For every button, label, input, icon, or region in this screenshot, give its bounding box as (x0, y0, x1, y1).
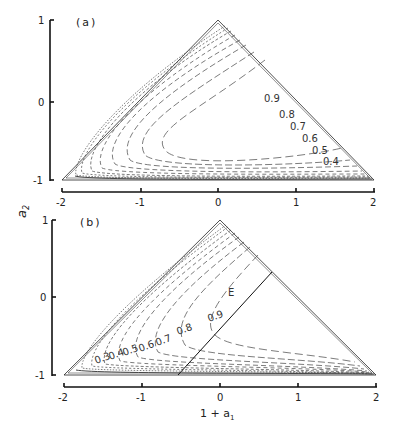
line-e (178, 272, 272, 375)
ylabel: a2 (14, 205, 31, 218)
xtick-b: -2 (58, 392, 68, 403)
contour-labels-a: 0.9 0.8 0.7 0.6 0.5 0.4 (264, 93, 339, 167)
xtick-b: 2 (373, 392, 379, 403)
ytick-b: -1 (35, 370, 45, 381)
svg-text:0.6: 0.6 (302, 133, 318, 144)
svg-text:0.5: 0.5 (312, 145, 328, 156)
svg-text:0.9: 0.9 (206, 308, 225, 324)
ytick-a-0: 0 (38, 97, 44, 108)
svg-text:0.9: 0.9 (264, 93, 280, 104)
panel-label-b: (b) (80, 216, 102, 229)
panel-label-a: (a) (76, 16, 97, 29)
xtick-b: -1 (136, 392, 146, 403)
svg-text:0.7: 0.7 (154, 332, 173, 348)
svg-text:0.6: 0.6 (137, 338, 156, 354)
panel-a: 1 0 -1 -2 -1 0 1 2 (a) 0.9 (14, 15, 376, 218)
panel-b: 1 0 -1 -2 -1 0 1 2 (b) E (35, 215, 379, 422)
svg-text:0.4: 0.4 (323, 156, 339, 167)
xtick-a: -2 (56, 197, 66, 208)
xtick-b: 1 (295, 392, 301, 403)
xtick-a: 2 (370, 197, 376, 208)
xtick-a: -1 (135, 197, 145, 208)
ytick-a-1: 1 (38, 15, 44, 26)
ytick-a-m1: -1 (33, 175, 43, 186)
xlabel: 1 + a1 (200, 407, 234, 422)
ytick-b: 1 (42, 215, 48, 226)
xtick-a: 0 (215, 197, 221, 208)
xtick-a: 1 (293, 197, 299, 208)
svg-text:0.8: 0.8 (279, 109, 295, 120)
ytick-b: 0 (40, 292, 46, 303)
svg-text:0.8: 0.8 (175, 321, 194, 337)
svg-text:0.7: 0.7 (290, 121, 306, 132)
figure: 1 0 -1 -2 -1 0 1 2 (a) 0.9 (0, 0, 395, 428)
line-e-label: E (228, 287, 234, 298)
xtick-b: 0 (217, 392, 223, 403)
